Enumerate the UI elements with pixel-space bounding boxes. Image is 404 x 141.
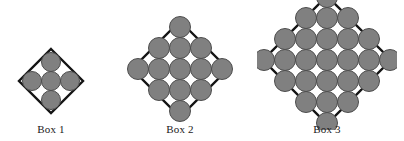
box-1-group — [13, 43, 89, 119]
circle — [170, 59, 191, 80]
circle — [149, 59, 170, 80]
box-3-diagram — [257, 0, 397, 130]
circle — [317, 29, 338, 50]
circle — [317, 8, 338, 29]
circle — [275, 29, 296, 50]
box-2-diagram — [126, 15, 234, 123]
circle — [191, 38, 212, 59]
circle — [128, 59, 149, 80]
circle — [338, 8, 359, 29]
circle — [191, 59, 212, 80]
circle — [23, 72, 42, 91]
box-1-diagram — [13, 43, 89, 119]
circle — [212, 59, 233, 80]
circle — [149, 38, 170, 59]
circle — [191, 80, 212, 101]
circle — [338, 29, 359, 50]
circle — [170, 101, 191, 122]
circle — [61, 72, 80, 91]
circle — [296, 50, 317, 71]
circle — [296, 92, 317, 113]
circle — [338, 71, 359, 92]
circle — [317, 50, 338, 71]
circle — [275, 71, 296, 92]
circle — [42, 91, 61, 110]
boxes-figure: Box 1Box 2Box 3 — [0, 0, 404, 141]
circle — [338, 92, 359, 113]
circle — [359, 50, 380, 71]
circle — [42, 53, 61, 72]
circle — [149, 80, 170, 101]
circle — [296, 8, 317, 29]
circle — [170, 80, 191, 101]
circle — [317, 92, 338, 113]
circle — [359, 29, 380, 50]
box-3-label: Box 3 — [125, 123, 404, 136]
circle — [170, 38, 191, 59]
circle — [296, 71, 317, 92]
circle — [170, 17, 191, 38]
circle — [257, 50, 275, 71]
circle — [359, 71, 380, 92]
circle — [380, 50, 398, 71]
circle — [42, 72, 61, 91]
circle — [275, 50, 296, 71]
circle — [296, 29, 317, 50]
circle — [338, 50, 359, 71]
box-2-group — [126, 15, 234, 123]
circle — [317, 71, 338, 92]
box-3-group — [257, 0, 397, 130]
